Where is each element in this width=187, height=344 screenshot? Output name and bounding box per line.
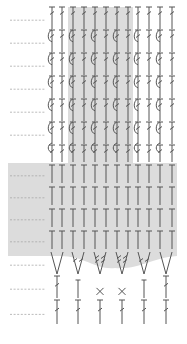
shade-lower-block bbox=[8, 163, 177, 268]
stitch-row bbox=[54, 300, 169, 324]
hdc-stitch-icon bbox=[76, 280, 81, 298]
post-stitch-icon bbox=[48, 122, 55, 144]
post-stitch-icon bbox=[48, 30, 55, 52]
hdc-stitch-icon bbox=[142, 280, 147, 298]
post-stitch-icon bbox=[146, 145, 152, 162]
post-stitch-icon bbox=[169, 145, 175, 162]
post-stitch-icon bbox=[135, 7, 141, 29]
post-stitch-icon bbox=[134, 53, 141, 75]
post-stitch-icon bbox=[156, 76, 163, 98]
post-stitch-icon bbox=[146, 122, 152, 144]
post-stitch-icon bbox=[169, 30, 175, 52]
post-stitch-icon bbox=[134, 143, 141, 162]
post-stitch-icon bbox=[59, 30, 65, 52]
post-stitch-icon bbox=[134, 99, 141, 121]
post-stitch-icon bbox=[146, 99, 152, 121]
crochet-chart bbox=[0, 0, 187, 344]
post-stitch-icon bbox=[156, 143, 163, 162]
post-stitch-icon bbox=[156, 99, 163, 121]
post-stitch-icon bbox=[169, 99, 175, 121]
post-stitch-icon bbox=[146, 30, 152, 52]
post-stitch-icon bbox=[48, 143, 55, 162]
tr-stitch-icon bbox=[163, 276, 169, 298]
post-stitch-icon bbox=[49, 7, 55, 29]
post-stitch-icon bbox=[156, 30, 163, 52]
post-stitch-icon bbox=[169, 7, 175, 29]
shaded-regions bbox=[8, 7, 177, 268]
tr-stitch-icon bbox=[163, 300, 169, 324]
post-stitch-icon bbox=[59, 76, 65, 98]
post-stitch-icon bbox=[169, 122, 175, 144]
post-stitch-icon bbox=[146, 76, 152, 98]
post-stitch-icon bbox=[134, 30, 141, 52]
post-stitch-icon bbox=[146, 53, 152, 75]
tr-stitch-icon bbox=[119, 300, 125, 324]
post-stitch-icon bbox=[48, 53, 55, 75]
post-stitch-icon bbox=[48, 99, 55, 121]
post-stitch-icon bbox=[169, 76, 175, 98]
stitch-row bbox=[54, 276, 169, 298]
shade-center-band bbox=[68, 7, 133, 163]
post-stitch-icon bbox=[134, 122, 141, 144]
post-stitch-icon bbox=[59, 53, 65, 75]
post-stitch-icon bbox=[59, 99, 65, 121]
sc-stitch-icon bbox=[119, 288, 126, 295]
post-stitch-icon bbox=[169, 53, 175, 75]
sc-stitch-icon bbox=[97, 288, 104, 295]
post-stitch-icon bbox=[146, 7, 152, 29]
post-stitch-icon bbox=[59, 7, 65, 29]
tr-stitch-icon bbox=[141, 300, 147, 324]
post-stitch-icon bbox=[134, 76, 141, 98]
tr-stitch-icon bbox=[97, 300, 103, 324]
tr-stitch-icon bbox=[75, 300, 81, 324]
post-stitch-icon bbox=[59, 122, 65, 144]
post-stitch-icon bbox=[157, 7, 163, 29]
post-stitch-icon bbox=[48, 76, 55, 98]
post-stitch-icon bbox=[156, 53, 163, 75]
tr-stitch-icon bbox=[54, 276, 60, 298]
post-stitch-icon bbox=[156, 122, 163, 144]
post-stitch-icon bbox=[59, 145, 65, 162]
tr-stitch-icon bbox=[54, 300, 60, 324]
